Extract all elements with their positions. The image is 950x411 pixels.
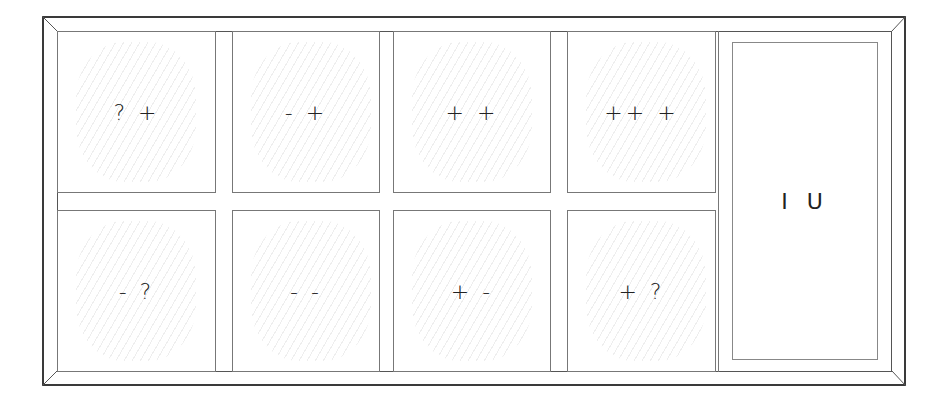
cell-label: ? + xyxy=(58,100,215,125)
cell-r1-c4: ++ + xyxy=(567,31,716,193)
cell-r1-c1: ? + xyxy=(57,31,216,193)
cell-r2-c4: + ? xyxy=(567,210,716,372)
side-panel: I U xyxy=(732,42,878,360)
cell-r2-c2: - - xyxy=(232,210,380,372)
cell-label: - - xyxy=(233,279,379,304)
cell-r1-c3: + + xyxy=(393,31,551,193)
cell-r2-c1: - ? xyxy=(57,210,216,372)
cell-label: + ? xyxy=(568,279,715,304)
cell-label: - + xyxy=(233,100,379,125)
cell-label: ++ + xyxy=(568,100,715,125)
cell-r1-c2: - + xyxy=(232,31,380,193)
cell-label: + - xyxy=(394,279,550,304)
side-panel-label: I U xyxy=(733,189,877,214)
cell-r2-c3: + - xyxy=(393,210,551,372)
cell-label: - ? xyxy=(58,279,215,304)
cell-label: + + xyxy=(394,100,550,125)
